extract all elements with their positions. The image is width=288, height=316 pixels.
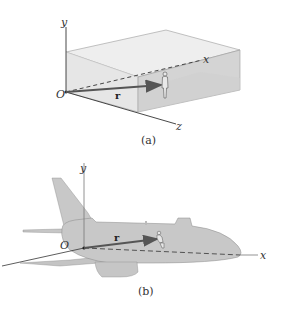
horizontal-stabilizer — [23, 229, 66, 233]
engine-nacelle — [95, 262, 138, 277]
vector-r-label-b: r — [114, 232, 120, 243]
caption-b: (b) — [138, 285, 154, 298]
y-axis-label-b: y — [79, 162, 87, 175]
figure-b: y x O r (b) — [2, 162, 267, 298]
x-axis-label: x — [203, 53, 210, 66]
figure-a: y x z O r (a) — [56, 16, 240, 147]
figure-canvas: y x z O r (a) y — [0, 0, 288, 316]
origin-label: O — [56, 88, 65, 101]
y-axis-label: y — [60, 16, 68, 29]
x-axis-label-b: x — [260, 249, 267, 262]
origin-label-b: O — [60, 239, 69, 252]
vector-r-label: r — [115, 90, 121, 101]
caption-a: (a) — [141, 134, 156, 147]
z-axis-label: z — [175, 120, 182, 133]
